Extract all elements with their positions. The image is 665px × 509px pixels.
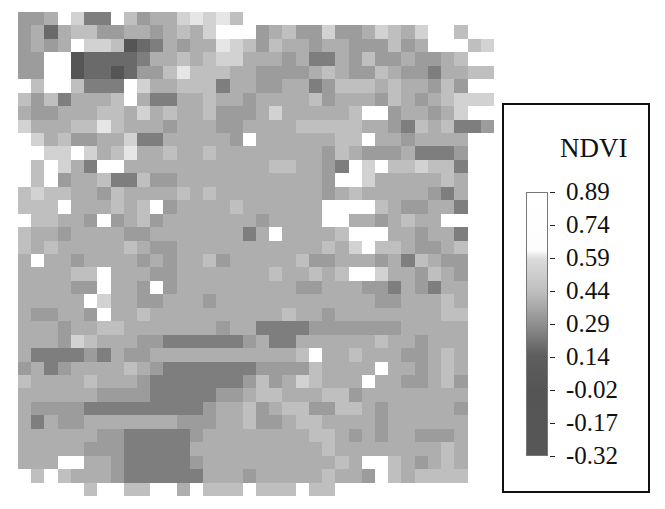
heatmap-cell bbox=[58, 267, 71, 280]
heatmap-cell bbox=[296, 214, 309, 227]
heatmap-cell bbox=[84, 227, 97, 240]
heatmap-cell bbox=[335, 442, 348, 455]
heatmap-cell bbox=[322, 187, 335, 200]
heatmap-cell bbox=[230, 227, 243, 240]
heatmap-cell bbox=[282, 146, 295, 159]
heatmap-cell bbox=[349, 348, 362, 361]
heatmap-cell bbox=[375, 415, 388, 428]
heatmap-cell bbox=[177, 39, 190, 52]
heatmap-cell bbox=[97, 281, 110, 294]
heatmap-cell bbox=[203, 146, 216, 159]
heatmap-cell bbox=[362, 133, 375, 146]
heatmap-cell bbox=[481, 388, 494, 401]
heatmap-cell bbox=[428, 93, 441, 106]
heatmap-cell bbox=[309, 456, 322, 469]
heatmap-cell bbox=[124, 160, 137, 173]
heatmap-cell bbox=[388, 187, 401, 200]
colorbar-tick bbox=[550, 456, 555, 457]
heatmap-cell bbox=[216, 214, 229, 227]
heatmap-cell bbox=[375, 39, 388, 52]
heatmap-cell bbox=[97, 388, 110, 401]
heatmap-cell bbox=[137, 335, 150, 348]
heatmap-cell bbox=[309, 348, 322, 361]
heatmap-cell bbox=[243, 415, 256, 428]
heatmap-cell bbox=[190, 66, 203, 79]
heatmap-cell bbox=[190, 483, 203, 496]
heatmap-cell bbox=[296, 429, 309, 442]
heatmap-cell bbox=[415, 294, 428, 307]
heatmap-cell bbox=[150, 254, 163, 267]
heatmap-cell bbox=[111, 388, 124, 401]
heatmap-cell bbox=[216, 227, 229, 240]
heatmap-cell bbox=[190, 160, 203, 173]
heatmap-cell bbox=[177, 187, 190, 200]
heatmap-cell bbox=[177, 429, 190, 442]
heatmap-cell bbox=[269, 146, 282, 159]
heatmap-cell bbox=[309, 308, 322, 321]
heatmap-cell bbox=[190, 133, 203, 146]
heatmap-cell bbox=[150, 388, 163, 401]
heatmap-cell bbox=[124, 241, 137, 254]
heatmap-cell bbox=[468, 254, 481, 267]
heatmap-cell bbox=[428, 12, 441, 25]
heatmap-cell bbox=[269, 267, 282, 280]
heatmap-cell bbox=[335, 375, 348, 388]
heatmap-cell bbox=[401, 133, 414, 146]
heatmap-cell bbox=[111, 321, 124, 334]
heatmap-cell bbox=[269, 133, 282, 146]
heatmap-cell bbox=[322, 214, 335, 227]
heatmap-cell bbox=[31, 321, 44, 334]
heatmap-cell bbox=[468, 281, 481, 294]
heatmap-cell bbox=[177, 66, 190, 79]
heatmap-cell bbox=[256, 483, 269, 496]
heatmap-cell bbox=[243, 321, 256, 334]
heatmap-cell bbox=[71, 187, 84, 200]
heatmap-cell bbox=[124, 254, 137, 267]
heatmap-cell bbox=[163, 173, 176, 186]
heatmap-cell bbox=[137, 93, 150, 106]
heatmap-cell bbox=[137, 308, 150, 321]
heatmap-cell bbox=[428, 187, 441, 200]
heatmap-cell bbox=[177, 227, 190, 240]
heatmap-cell bbox=[309, 375, 322, 388]
colorbar-tick bbox=[550, 225, 555, 226]
heatmap-cell bbox=[203, 241, 216, 254]
heatmap-cell bbox=[269, 348, 282, 361]
heatmap-cell bbox=[269, 173, 282, 186]
heatmap-cell bbox=[177, 335, 190, 348]
heatmap-cell bbox=[309, 39, 322, 52]
heatmap-cell bbox=[97, 146, 110, 159]
heatmap-cell bbox=[428, 281, 441, 294]
heatmap-cell bbox=[401, 415, 414, 428]
heatmap-cell bbox=[243, 402, 256, 415]
heatmap-cell bbox=[441, 321, 454, 334]
heatmap-cell bbox=[481, 415, 494, 428]
heatmap-cell bbox=[18, 173, 31, 186]
heatmap-cell bbox=[111, 79, 124, 92]
heatmap-cell bbox=[282, 388, 295, 401]
heatmap-cell bbox=[481, 146, 494, 159]
heatmap-cell bbox=[18, 281, 31, 294]
heatmap-cell bbox=[362, 120, 375, 133]
heatmap-cell bbox=[322, 39, 335, 52]
heatmap-cell bbox=[203, 120, 216, 133]
heatmap-cell bbox=[190, 214, 203, 227]
heatmap-cell bbox=[362, 214, 375, 227]
heatmap-cell bbox=[216, 160, 229, 173]
heatmap-cell bbox=[282, 335, 295, 348]
heatmap-cell bbox=[124, 146, 137, 159]
heatmap-cell bbox=[282, 106, 295, 119]
heatmap-cell bbox=[441, 415, 454, 428]
heatmap-cell bbox=[415, 214, 428, 227]
heatmap-cell bbox=[256, 308, 269, 321]
heatmap-cell bbox=[454, 335, 467, 348]
heatmap-cell bbox=[256, 415, 269, 428]
heatmap-cell bbox=[150, 402, 163, 415]
heatmap-cell bbox=[256, 442, 269, 455]
heatmap-cell bbox=[415, 348, 428, 361]
heatmap-cell bbox=[335, 106, 348, 119]
heatmap-cell bbox=[124, 200, 137, 213]
heatmap-cell bbox=[468, 227, 481, 240]
heatmap-cell bbox=[428, 133, 441, 146]
heatmap-cell bbox=[203, 415, 216, 428]
